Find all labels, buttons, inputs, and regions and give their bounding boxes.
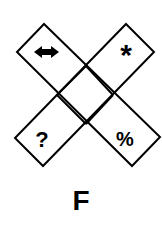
cell-divider: [57, 95, 86, 124]
cell-divider: [86, 66, 113, 95]
percent-symbol: %: [114, 127, 136, 151]
double-arrow-icon: [34, 46, 59, 58]
asterisk-symbol: *: [112, 40, 140, 70]
cell-divider: [86, 95, 113, 124]
question-mark-symbol: ?: [32, 128, 52, 152]
cell-divider: [57, 66, 86, 95]
option-label: F: [0, 186, 162, 216]
